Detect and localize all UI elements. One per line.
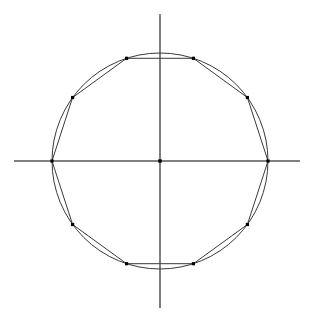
figure-canvas	[0, 0, 314, 322]
polygon-vertex-dot	[50, 159, 53, 162]
polygon-vertex-dot	[246, 96, 249, 99]
geometry-figure	[0, 0, 314, 322]
polygon-vertex-dot	[266, 159, 269, 162]
polygon-vertex-dot	[192, 262, 195, 265]
polygon-vertex-dot	[71, 223, 74, 226]
polygon-vertex-dot	[71, 96, 74, 99]
polygon-vertex-dot	[125, 57, 128, 60]
origin-marker	[158, 159, 161, 162]
polygon-vertex-dot	[246, 223, 249, 226]
polygon-vertex-dot	[125, 262, 128, 265]
polygon-vertex-dot	[192, 57, 195, 60]
